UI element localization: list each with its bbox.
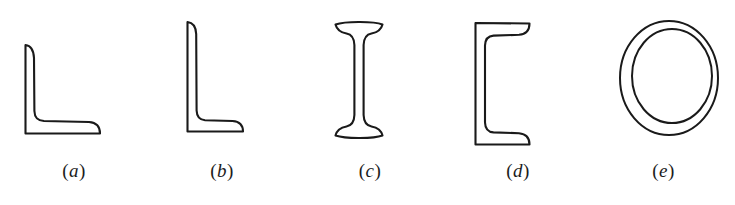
- caption-c-open-paren: (: [359, 160, 366, 181]
- i-beam-svg: [332, 20, 390, 146]
- caption-c: (c): [296, 160, 444, 182]
- caption-b-open-paren: (: [210, 160, 217, 181]
- circular-tube-svg: [617, 18, 723, 144]
- caption-a-label: a: [69, 160, 79, 181]
- caption-b-label: b: [217, 160, 227, 181]
- channel-drawing: [472, 20, 536, 150]
- caption-c-close-paren: ): [374, 160, 381, 181]
- section-cell-d: (d): [444, 0, 592, 205]
- structural-sections-figure: (a) (b) (c) (d): [0, 0, 735, 205]
- caption-a-close-paren: ): [79, 160, 86, 181]
- caption-e-close-paren: ): [668, 160, 675, 181]
- caption-d-close-paren: ): [523, 160, 530, 181]
- caption-b: (b): [148, 160, 296, 182]
- tube-inner-circle: [632, 29, 712, 123]
- caption-e: (e): [592, 160, 735, 182]
- tube-outer-circle: [620, 21, 718, 135]
- caption-d: (d): [444, 160, 592, 182]
- channel-svg: [472, 20, 536, 150]
- caption-b-close-paren: ): [227, 160, 234, 181]
- unequal-leg-angle-drawing: [184, 19, 252, 139]
- equal-leg-angle-outline: [26, 45, 101, 134]
- caption-a-open-paren: (: [62, 160, 69, 181]
- equal-leg-angle-svg: [22, 42, 108, 142]
- section-cell-e: (e): [592, 0, 735, 205]
- section-cell-a: (a): [0, 0, 148, 205]
- caption-a: (a): [0, 160, 148, 182]
- caption-e-open-paren: (: [652, 160, 659, 181]
- caption-e-label: e: [659, 160, 668, 181]
- unequal-leg-angle-svg: [184, 19, 252, 139]
- i-beam-outline: [336, 22, 383, 138]
- equal-leg-angle-drawing: [22, 42, 108, 142]
- section-cell-c: (c): [296, 0, 444, 205]
- i-beam-drawing: [332, 20, 390, 146]
- circular-tube-drawing: [617, 18, 723, 144]
- unequal-leg-angle-outline: [188, 22, 244, 132]
- channel-outline: [476, 23, 530, 145]
- caption-d-label: d: [513, 160, 523, 181]
- caption-d-open-paren: (: [506, 160, 513, 181]
- section-cell-b: (b): [148, 0, 296, 205]
